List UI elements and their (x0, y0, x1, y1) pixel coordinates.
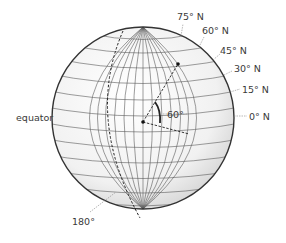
label-15N: 15° N (242, 84, 269, 95)
globe-diagram: 75° N 60° N 45° N 30° N 15° N 0° N equat… (0, 0, 286, 243)
label-180: 180° (72, 216, 95, 227)
center-point (141, 120, 145, 124)
label-0N: 0° N (249, 111, 270, 122)
label-angle-60: 60° (167, 109, 184, 120)
label-equator: equator (16, 112, 53, 123)
label-75N: 75° N (177, 11, 204, 22)
label-60N: 60° N (202, 25, 229, 36)
label-45N: 45° N (220, 45, 247, 56)
label-30N: 30° N (234, 63, 261, 74)
surface-point (176, 62, 180, 66)
